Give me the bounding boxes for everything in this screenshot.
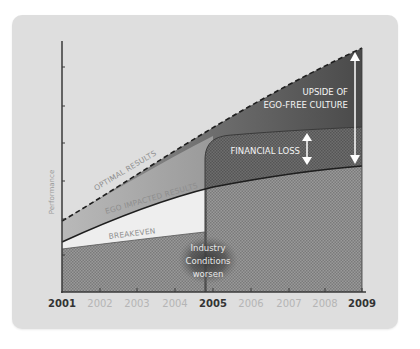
year-label: 2003 [124, 298, 149, 309]
industry-label-3: worsen [193, 269, 224, 279]
performance-chart: Industry Conditions worsen Performance 2… [0, 0, 420, 349]
year-label: 2007 [276, 298, 301, 309]
upside-label-line1: UPSIDE OF [303, 87, 349, 97]
year-label: 2008 [312, 298, 337, 309]
year-label: 2001 [48, 298, 76, 309]
year-label: 2006 [238, 298, 263, 309]
year-label: 2002 [87, 298, 112, 309]
y-axis-label: Performance [48, 170, 56, 214]
industry-label-1: Industry [191, 243, 226, 253]
year-label: 2009 [348, 298, 376, 309]
year-label: 2005 [199, 298, 227, 309]
upside-label-line2: EGO-FREE CULTURE [263, 100, 348, 110]
financial-loss-label: FINANCIAL LOSS [230, 146, 300, 156]
year-label: 2004 [162, 298, 187, 309]
industry-label-2: Conditions [186, 256, 232, 266]
